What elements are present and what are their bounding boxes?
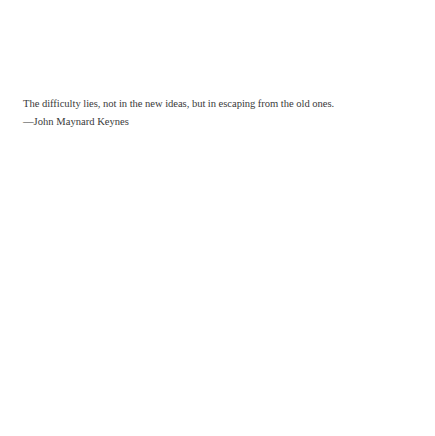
quote-text: The difficulty lies, not in the new idea… [23,96,334,111]
quote-attribution: —John Maynard Keynes [23,114,334,129]
page: The difficulty lies, not in the new idea… [0,0,435,436]
quote-block: The difficulty lies, not in the new idea… [23,96,334,129]
